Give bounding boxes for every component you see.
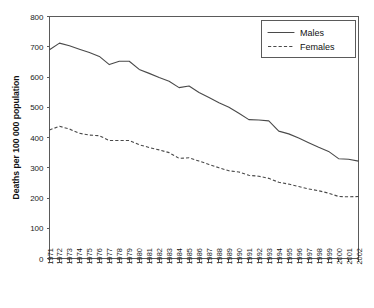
x-tick-label: 2002 xyxy=(355,248,364,264)
y-tick-label: 100 xyxy=(30,224,44,233)
series-lines xyxy=(50,43,359,197)
y-tick-label: 400 xyxy=(30,134,44,143)
y-tick-label: 800 xyxy=(30,13,44,22)
x-tick-label: 1994 xyxy=(275,248,284,264)
x-tick-label: 1996 xyxy=(295,248,304,264)
chart-canvas: 0100200300400500600700800 19711972197319… xyxy=(0,0,374,308)
y-tick-label: 500 xyxy=(30,103,44,112)
y-axis-ticks: 0100200300400500600700800 xyxy=(30,13,49,264)
y-tick-label: 700 xyxy=(30,43,44,52)
y-axis-title-label: Deaths per 100 000 population xyxy=(11,75,21,199)
x-tick-label: 1990 xyxy=(235,248,244,264)
y-axis-title: Deaths per 100 000 population xyxy=(11,75,21,199)
x-tick-label: 1983 xyxy=(165,248,174,264)
x-tick-label: 1982 xyxy=(155,248,164,264)
x-axis-ticks: 1971197219731974197519761977197819791980… xyxy=(46,248,364,264)
y-tick-label: 300 xyxy=(30,164,44,173)
x-tick-label: 1984 xyxy=(175,248,184,264)
x-tick-label: 1992 xyxy=(255,248,264,264)
x-tick-label: 1971 xyxy=(46,248,55,264)
deaths-rate-line-chart: 0100200300400500600700800 19711972197319… xyxy=(0,0,374,308)
x-tick-label: 1976 xyxy=(95,248,104,264)
x-tick-label: 1977 xyxy=(105,248,114,264)
x-tick-label: 1974 xyxy=(75,248,84,264)
legend-label-females: Females xyxy=(300,42,335,52)
x-tick-label: 2001 xyxy=(345,248,354,264)
x-tick-label: 1997 xyxy=(305,248,314,264)
x-tick-label: 1981 xyxy=(145,248,154,264)
x-tick-label: 1995 xyxy=(285,248,294,264)
series-line-females xyxy=(50,126,359,196)
y-tick-label: 200 xyxy=(30,194,44,203)
x-tick-label: 1986 xyxy=(195,248,204,264)
x-tick-label: 2000 xyxy=(335,248,344,264)
series-line-males xyxy=(50,43,359,161)
x-tick-label: 1972 xyxy=(55,248,64,264)
x-tick-label: 1985 xyxy=(185,248,194,264)
x-tick-label: 1999 xyxy=(325,248,334,264)
x-tick-label: 1987 xyxy=(205,248,214,264)
x-tick-label: 1980 xyxy=(135,248,144,264)
legend-label-males: Males xyxy=(300,28,325,38)
y-tick-label: 600 xyxy=(30,73,44,82)
x-tick-label: 1989 xyxy=(225,248,234,264)
x-tick-label: 1998 xyxy=(315,248,324,264)
x-tick-label: 1975 xyxy=(85,248,94,264)
x-tick-label: 1978 xyxy=(115,248,124,264)
x-tick-label: 1991 xyxy=(245,248,254,264)
chart-legend: Males Females xyxy=(261,21,355,58)
y-tick-label: 0 xyxy=(39,255,44,264)
x-tick-label: 1993 xyxy=(265,248,274,264)
x-tick-label: 1973 xyxy=(65,248,74,264)
x-tick-label: 1979 xyxy=(125,248,134,264)
x-tick-label: 1988 xyxy=(215,248,224,264)
legend-box xyxy=(261,21,355,58)
